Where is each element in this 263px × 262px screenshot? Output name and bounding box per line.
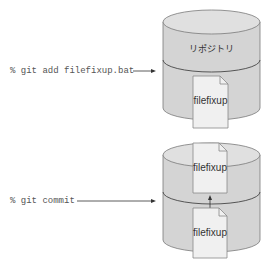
- arrow-add: [133, 69, 156, 73]
- file-label: filefixup: [194, 95, 228, 106]
- repository-label: リポジトリ: [189, 44, 234, 54]
- document-icon: filefixup: [193, 143, 227, 193]
- document-icon: filefixup: [193, 208, 227, 258]
- file-label: filefixup: [193, 227, 227, 238]
- arrow-commit: [77, 199, 156, 203]
- document-icon: filefixup: [193, 76, 228, 128]
- file-label: filefixup: [193, 162, 227, 173]
- diagram-canvas: リポジトリ filefixup filefixup filefixup: [0, 0, 263, 262]
